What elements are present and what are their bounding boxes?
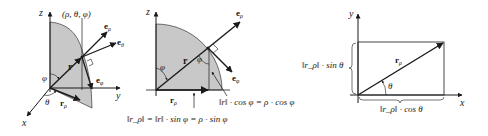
horizontal-brace (359, 97, 444, 103)
phi-angle-point-label: φ (197, 54, 202, 64)
e-rho-vector (208, 22, 240, 48)
x-axis-label: x (459, 97, 465, 108)
spherical-coordinates-figure: z (ρ, θ, φ) eρ eθ eφ r φ θ rρ y x (0, 0, 488, 136)
right-angle-marker (87, 59, 93, 66)
theta-angle-label: θ (388, 81, 393, 91)
horizontal-formula: ‖r_ρ‖ · cos θ (380, 104, 423, 114)
phi-angle-top-label: φ (160, 62, 165, 72)
e-phi-label: eφ (232, 73, 240, 84)
theta-arc (382, 81, 386, 95)
z-axis-label: z (38, 7, 43, 18)
point-coordinates-label: (ρ, θ, φ) (62, 9, 91, 19)
r-rho-vector (358, 43, 443, 95)
r-vector-label: r (183, 55, 188, 66)
projection-formula: ‖r_ρ‖ = ‖r‖ · sin φ = ρ · sin φ (127, 114, 227, 124)
e-rho-label: eρ (236, 8, 243, 19)
e-theta-vector (82, 43, 116, 57)
x-axis-label: x (21, 117, 27, 128)
vertical-brace (349, 43, 356, 94)
r-rho-label: rρ (395, 55, 402, 66)
r-rho-label: rρ (60, 98, 67, 109)
height-formula: ‖r‖ · cos φ = ρ · cos φ (219, 97, 294, 107)
y-axis-label: y (348, 8, 354, 19)
diagram-xy-projection: y x rρ θ ‖r_ρ‖ · sin θ ‖r_ρ‖ · cos θ (302, 8, 465, 114)
e-phi-label: eφ (96, 75, 104, 86)
point-marker (207, 47, 210, 50)
diagram-cross-section: z eρ eφ r φ φ rρ ‖r‖ · cos φ = ρ · cos φ… (127, 6, 294, 124)
e-rho-vector (82, 32, 107, 57)
r-rho-label: rρ (170, 95, 177, 106)
e-theta-label: eθ (117, 37, 124, 48)
phi-angle-label: φ (42, 73, 47, 83)
vertical-formula: ‖r_ρ‖ · sin θ (302, 60, 344, 70)
shaded-quarter-disk (156, 24, 222, 90)
diagram-3d-view: z (ρ, θ, φ) eρ eθ eφ r φ θ rρ y x (21, 7, 124, 128)
theta-angle-label: θ (45, 97, 50, 107)
r-vector-label: r (68, 61, 73, 72)
e-rho-label: eρ (104, 21, 111, 32)
y-axis-label: y (115, 90, 121, 101)
point-marker (81, 56, 84, 59)
right-angle-marker (213, 44, 218, 53)
z-axis-label: z (145, 6, 150, 17)
